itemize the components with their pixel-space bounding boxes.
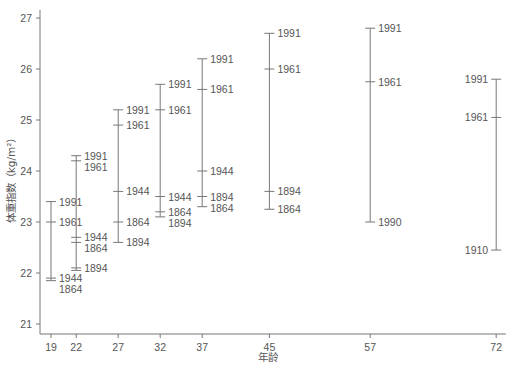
x-tick-label: 27 [112, 341, 124, 353]
range-group-age-32: 19911961194418641894 [155, 78, 192, 229]
y-tick-label: 26 [20, 63, 32, 75]
x-tick-label: 19 [45, 341, 57, 353]
point-label: 1864 [84, 242, 108, 254]
range-group-age-19: 1991196119441864 [46, 196, 83, 296]
point-label: 1961 [277, 63, 301, 75]
point-label: 1910 [465, 244, 489, 256]
y-tick-label: 22 [20, 267, 32, 279]
axes: 212223242526271922273237455772 [20, 10, 506, 353]
point-label: 1864 [210, 202, 234, 214]
point-label: 1961 [168, 104, 192, 116]
point-label: 1961 [84, 161, 108, 173]
chart: 212223242526271922273237455772 199119611… [0, 0, 508, 372]
point-label: 1944 [168, 191, 192, 203]
range-group-age-45: 1991196118941864 [264, 27, 301, 215]
point-label: 1961 [59, 216, 83, 228]
y-tick-label: 25 [20, 114, 32, 126]
series: 1991196119441864199119611944186418941991… [46, 22, 501, 295]
range-group-age-72: 199119611910 [465, 73, 501, 256]
y-axis-title: 体重指数（kg/m²） [5, 133, 17, 224]
point-label: 1991 [168, 78, 192, 90]
point-label: 1991 [126, 104, 150, 116]
point-label: 1990 [378, 216, 402, 228]
range-group-age-22: 19911961194418641894 [71, 150, 108, 274]
range-group-age-37: 19911961194418941864 [197, 53, 234, 214]
x-tick-label: 32 [154, 341, 166, 353]
point-label: 1864 [59, 283, 83, 295]
range-group-age-57: 199119611990 [365, 22, 402, 228]
point-label: 1961 [126, 119, 150, 131]
point-label: 1864 [277, 203, 301, 215]
point-label: 1944 [210, 165, 234, 177]
point-label: 1894 [126, 236, 150, 248]
point-label: 1991 [59, 196, 83, 208]
point-label: 1991 [210, 53, 234, 65]
x-tick-label: 57 [364, 341, 376, 353]
point-label: 1961 [378, 76, 402, 88]
y-tick-label: 24 [20, 165, 32, 177]
range-group-age-27: 19911961194418641894 [113, 104, 150, 249]
y-tick-label: 27 [20, 12, 32, 24]
y-tick-label: 23 [20, 216, 32, 228]
point-label: 1864 [126, 216, 150, 228]
point-label: 1894 [168, 217, 192, 229]
x-tick-label: 22 [70, 341, 82, 353]
point-label: 1991 [465, 73, 489, 85]
point-label: 1961 [210, 83, 234, 95]
point-label: 1894 [277, 185, 301, 197]
point-label: 1944 [126, 185, 150, 197]
point-label: 1894 [84, 262, 108, 274]
point-label: 1991 [378, 22, 402, 34]
y-tick-label: 21 [20, 318, 32, 330]
point-label: 1991 [277, 27, 301, 39]
point-label: 1961 [465, 111, 489, 123]
x-tick-label: 37 [196, 341, 208, 353]
x-axis-title: 年龄 [258, 351, 279, 363]
x-tick-label: 72 [490, 341, 502, 353]
